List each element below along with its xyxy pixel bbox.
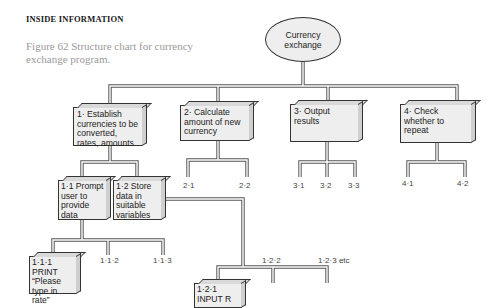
root-node-currency-exchange: Currency exchange (265, 17, 341, 62)
root-node-label: Currency exchange (278, 30, 328, 50)
leaf-1-1-2: 1·1·2 (100, 256, 119, 265)
leaf-3-1: 3·1 (293, 181, 305, 190)
node-2-calculate-amount: 2· Calculate amount of new currency (180, 105, 250, 141)
node-label: 1·2·1 INPUT R (197, 284, 231, 304)
node-1-1-1-print: 1·1·1 PRINT “Please type in rate” (29, 256, 77, 294)
leaf-3-2: 3·2 (320, 181, 332, 190)
node-3-output-results: 3· Output results (290, 104, 359, 142)
node-label: 4· Check whether to repeat (404, 106, 444, 135)
node-label: 3· Output results (294, 106, 330, 126)
leaf-2-1: 2·1 (183, 181, 195, 190)
node-label: 1·2 Store data in suitable variables (116, 181, 151, 220)
node-1-2-store-data: 1·2 Store data in suitable variables (113, 180, 162, 220)
leaf-2-2: 2·2 (239, 181, 251, 190)
leaf-3-3: 3·3 (348, 181, 360, 190)
node-label: 1· Establish currencies to be converted,… (77, 109, 138, 148)
node-4-check-repeat: 4· Check whether to repeat (400, 104, 472, 143)
leaf-1-1-3: 1·1·3 (153, 256, 172, 265)
node-1-1-prompt-user: 1·1 Prompt user to provide data (58, 180, 107, 220)
leaf-1-2-3: 1·2·3 etc (318, 256, 350, 265)
node-label: 1·1 Prompt user to provide data (61, 181, 104, 220)
node-1-establish-currencies: 1· Establish currencies to be converted,… (73, 107, 143, 146)
leaf-1-2-2: 1·2·2 (262, 256, 281, 265)
leaf-4-2: 4·2 (457, 179, 469, 188)
leaf-4-1: 4·1 (402, 179, 414, 188)
node-label: 2· Calculate amount of new currency (184, 107, 240, 136)
node-1-2-1-input: 1·2·1 INPUT R (194, 283, 242, 308)
